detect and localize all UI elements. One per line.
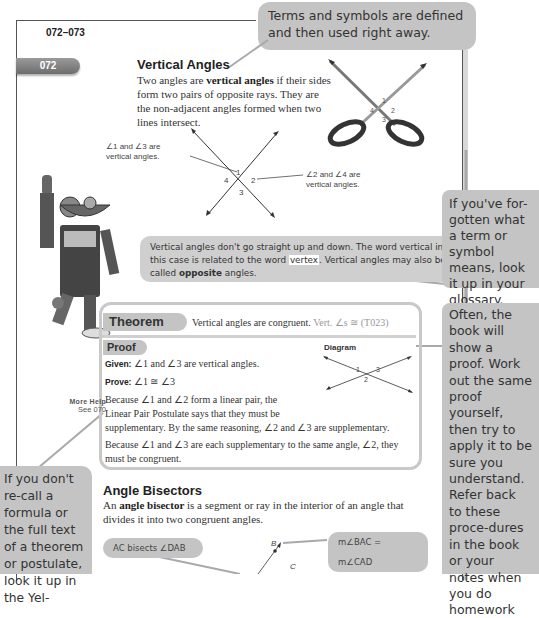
proof-given: Given: ∠1 and ∠3 are vertical angles. — [105, 357, 259, 371]
callout-measure-equal: m∠BAC = m∠CAD — [328, 532, 428, 572]
proof-tab: Proof — [103, 340, 147, 355]
svg-text:4: 4 — [370, 107, 374, 114]
proof-paragraph-1-line-3: supplementary. By the same reasoning, ∠2… — [105, 421, 389, 435]
angle-label-1: 1 — [236, 168, 240, 178]
theorem-statement: Vertical angles are congruent. Vert. ∠s … — [192, 317, 389, 328]
proof-paragraph-2: Because ∠1 and ∠3 are each supplementary… — [105, 438, 413, 466]
note-glossary-tip: If you've for-gotten what a term or symb… — [442, 190, 539, 288]
svg-text:3: 3 — [376, 366, 380, 373]
svg-text:2: 2 — [391, 107, 395, 114]
angle-label-3: 3 — [239, 188, 243, 198]
proof-diagram-label: Diagram — [324, 343, 356, 353]
note-vertex-explanation: Vertical angles don't go straight up and… — [140, 236, 456, 282]
angle-bisectors-title: Angle Bisectors — [103, 483, 202, 498]
note-proof-tip: Often, the book will show a proof. Work … — [442, 303, 539, 574]
svg-text:1: 1 — [382, 97, 386, 104]
svg-text:2: 2 — [364, 376, 368, 383]
scissors-illustration: 1 2 3 4 — [325, 55, 435, 150]
point-c-label: C — [290, 562, 296, 572]
callout-leader-right — [255, 172, 305, 182]
svg-text:3: 3 — [382, 116, 386, 123]
proof-paragraph-1-line-1: Because ∠1 and ∠2 form a linear pair, th… — [105, 393, 277, 407]
angle-label-4: 4 — [224, 176, 228, 186]
callout-ac-bisects: AC bisects ∠DAB — [103, 538, 203, 558]
note-formula-tip: If you don't re-call a formula or the fu… — [0, 466, 92, 574]
vertical-angles-title: Vertical Angles — [137, 57, 230, 72]
callout-angles-1-3: ∠1 and ∠3 are vertical angles. — [106, 142, 176, 162]
more-help-reference[interactable]: More Help See 070 — [52, 398, 106, 414]
bisector-diagram — [250, 540, 290, 574]
theorem-divider — [102, 335, 416, 338]
theorem-tab: Theorem — [103, 313, 187, 331]
more-help-see[interactable]: See 070 — [52, 405, 106, 414]
angle-bisectors-definition: An angle bisector is a segment or ray in… — [103, 498, 418, 526]
proof-paragraph-1-line-2: Linear Pair Postulate says that they mus… — [105, 407, 280, 421]
point-b-label: B — [271, 539, 276, 549]
theorem-reference: Vert. ∠s ≅ (T023) — [313, 317, 388, 328]
vertical-angles-definition: Two angles are vertical angles if their … — [137, 73, 332, 129]
more-help-title: More Help — [52, 398, 106, 405]
callout-angles-2-4: ∠2 and ∠4 are vertical angles. — [306, 170, 376, 190]
proof-diagram: 1 2 3 — [322, 354, 414, 394]
proof-prove: Prove: ∠1 ≅ ∠3 — [105, 375, 175, 389]
svg-text:1: 1 — [356, 366, 360, 373]
